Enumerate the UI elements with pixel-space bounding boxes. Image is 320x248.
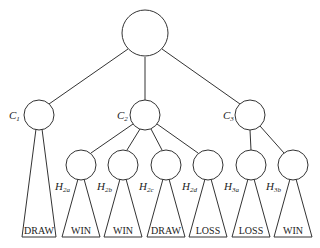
label-h2d: H2d (181, 180, 197, 194)
node-c3 (235, 100, 265, 130)
edge-root-c3 (162, 49, 240, 104)
outcome-h2b: WIN (113, 225, 133, 236)
label-h2c: H2c (138, 180, 154, 194)
edge-c2-h2c (151, 129, 162, 150)
edge-c2-h2b (127, 129, 140, 150)
outcome-h3a: LOSS (239, 225, 263, 236)
edge-c3-h3a (250, 130, 251, 150)
outcome-h2c: DRAW (151, 225, 181, 236)
node-h3b (278, 150, 308, 180)
label-h2b: H2b (96, 180, 112, 194)
label-c2: C2 (117, 109, 128, 123)
outcome-h2d: LOSS (196, 225, 220, 236)
outcome-h3b: WIN (283, 225, 303, 236)
node-h2c (151, 150, 181, 180)
node-h2b (108, 150, 138, 180)
label-c3: C3 (223, 109, 234, 123)
edge-root-c1 (49, 49, 128, 104)
node-h2d (193, 150, 223, 180)
node-c1 (24, 100, 54, 130)
node-h2a (66, 150, 96, 180)
node-c2 (130, 100, 160, 130)
label-h2a: H2a (54, 180, 70, 194)
label-c1: C1 (9, 109, 20, 123)
outcome-c1: DRAW (24, 225, 54, 236)
outcome-h2a: WIN (71, 225, 91, 236)
node-h3a (236, 150, 266, 180)
node-root (122, 10, 168, 56)
game-tree-diagram: C1 C2 C3 H2a H2b H2c H2d H3a H3b DRAW WI… (0, 0, 320, 248)
edge-c2-h2a (91, 124, 133, 153)
label-h3b: H3b (265, 180, 281, 194)
edge-c3-h3b (260, 126, 284, 153)
subtree-c1 (22, 129, 56, 237)
label-h3a: H3a (223, 180, 239, 194)
edge-c2-h2d (157, 124, 198, 153)
